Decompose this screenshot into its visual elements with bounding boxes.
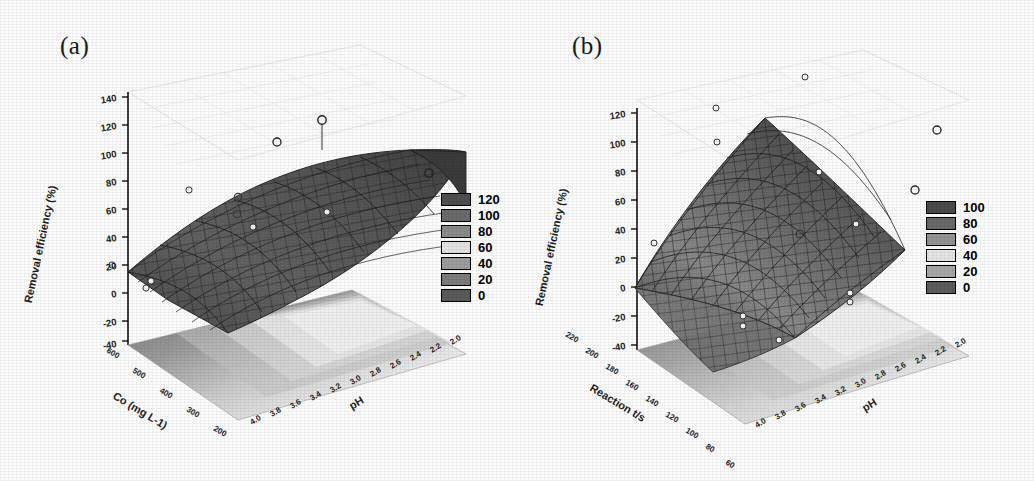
legend-label: 60 (478, 241, 492, 254)
panel-a-z-ticklabels: 140 120 100 80 60 40 20 0 -20 -40 (100, 92, 117, 351)
legend-item: 40 (441, 256, 500, 271)
legend-label: 0 (478, 289, 485, 302)
svg-text:20: 20 (614, 253, 626, 266)
svg-text:400: 400 (158, 386, 175, 401)
legend-swatch (926, 217, 956, 230)
svg-text:60: 60 (724, 458, 737, 471)
svg-text:100: 100 (609, 137, 626, 150)
panel-b-back-grid (637, 50, 969, 168)
svg-text:40: 40 (105, 232, 117, 245)
legend-item: 20 (441, 272, 500, 287)
legend-swatch (926, 233, 956, 246)
legend-item: 120 (441, 192, 500, 207)
legend-swatch (441, 273, 471, 286)
legend-item: 100 (926, 200, 985, 215)
panel-b-legend: 100 80 60 40 20 0 (926, 200, 985, 296)
svg-text:140: 140 (100, 92, 117, 105)
legend-item: 0 (926, 280, 985, 295)
svg-text:500: 500 (131, 366, 148, 381)
svg-text:80: 80 (614, 166, 626, 179)
svg-text:-40: -40 (611, 340, 626, 353)
svg-text:120: 120 (609, 108, 626, 121)
svg-text:100: 100 (684, 426, 701, 441)
panel-a-x-axis-title: Co (mg L-1) (111, 389, 170, 431)
legend-item: 80 (441, 224, 500, 239)
legend-label: 80 (963, 217, 977, 230)
legend-label: 80 (478, 225, 492, 238)
svg-text:200: 200 (584, 346, 601, 361)
svg-text:60: 60 (105, 204, 117, 217)
legend-label: 100 (478, 209, 500, 222)
legend-swatch (926, 281, 956, 294)
svg-text:0: 0 (619, 282, 626, 294)
panel-a: (a) (0, 0, 517, 481)
svg-text:120: 120 (100, 120, 117, 133)
svg-text:40: 40 (614, 224, 626, 237)
svg-text:100: 100 (100, 148, 117, 161)
legend-swatch (926, 201, 956, 214)
panel-a-plot: 140 120 100 80 60 40 20 0 -20 -40 Remova… (0, 0, 517, 481)
panel-b-z-axis (631, 108, 637, 350)
legend-label: 40 (478, 257, 492, 270)
legend-item: 20 (926, 264, 985, 279)
svg-text:180: 180 (604, 362, 621, 377)
legend-label: 40 (963, 249, 977, 262)
svg-text:140: 140 (644, 394, 661, 409)
legend-swatch (441, 193, 471, 206)
svg-text:300: 300 (185, 405, 202, 420)
legend-label: 0 (963, 281, 970, 294)
svg-text:80: 80 (704, 442, 717, 455)
svg-text:120: 120 (664, 410, 681, 425)
legend-item: 0 (441, 288, 500, 303)
legend-swatch (441, 289, 471, 302)
legend-item: 80 (926, 216, 985, 231)
panel-b-y-axis-title: pH (860, 396, 879, 414)
svg-text:0: 0 (110, 288, 117, 300)
svg-text:20: 20 (105, 260, 117, 273)
panel-a-back-grid (128, 45, 466, 164)
figure-canvas: (a) (0, 0, 1034, 481)
svg-text:220: 220 (564, 330, 581, 345)
panel-a-legend: 120 100 80 60 40 20 (441, 192, 500, 304)
legend-label: 20 (478, 273, 492, 286)
panel-b-z-ticklabels: 120 100 80 60 40 20 0 -20 -40 (609, 108, 626, 353)
legend-label: 60 (963, 233, 977, 246)
legend-item: 100 (441, 208, 500, 223)
legend-label: 20 (963, 265, 977, 278)
legend-item: 60 (926, 232, 985, 247)
panel-b-z-axis-title: Removal efficiency (%) (533, 187, 570, 307)
panel-a-z-axis (122, 92, 128, 345)
legend-label: 120 (478, 193, 500, 206)
legend-swatch (926, 265, 956, 278)
panel-b-x-axis-title: Reaction t/s (588, 381, 648, 423)
panel-a-z-axis-title: Removal efficiency (%) (22, 184, 59, 304)
legend-item: 60 (441, 240, 500, 255)
legend-item: 40 (926, 248, 985, 263)
svg-text:80: 80 (105, 176, 117, 189)
svg-text:2.0: 2.0 (448, 333, 463, 347)
svg-text:2.0: 2.0 (953, 336, 968, 350)
svg-text:600: 600 (105, 346, 122, 361)
svg-text:-20: -20 (611, 311, 626, 324)
legend-swatch (441, 241, 471, 254)
svg-text:200: 200 (212, 424, 229, 439)
svg-text:60: 60 (614, 195, 626, 208)
legend-swatch (926, 249, 956, 262)
panel-b: (b) (517, 0, 1034, 481)
svg-text:160: 160 (624, 378, 641, 393)
legend-swatch (441, 257, 471, 270)
legend-swatch (441, 209, 471, 222)
legend-swatch (441, 225, 471, 238)
panel-a-y-axis-title: pH (347, 394, 366, 412)
svg-text:-20: -20 (102, 316, 117, 329)
legend-label: 100 (963, 201, 985, 214)
